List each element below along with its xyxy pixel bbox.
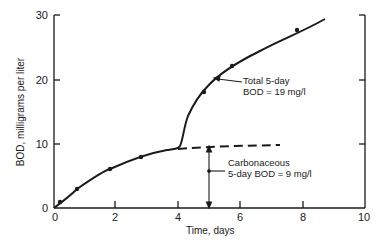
svg-text:30: 30 bbox=[36, 9, 48, 21]
total-label-2: BOD = 19 mg/l bbox=[243, 86, 306, 97]
svg-text:10: 10 bbox=[358, 211, 370, 223]
carbonaceous-bod-curve bbox=[178, 145, 280, 149]
svg-text:2: 2 bbox=[112, 211, 118, 223]
svg-text:20: 20 bbox=[36, 74, 48, 86]
total-label-1: Total 5-day bbox=[243, 75, 290, 86]
carbonaceous-label-1: Carbonaceous bbox=[228, 157, 290, 168]
total-arrow bbox=[214, 76, 242, 82]
carbonaceous-arrow bbox=[207, 146, 226, 208]
svg-text:0: 0 bbox=[52, 211, 58, 223]
svg-text:8: 8 bbox=[300, 211, 306, 223]
bod-chart: 30 20 10 0 0 2 4 6 8 10 Time, days BOD, … bbox=[0, 0, 384, 244]
total-bod-curve bbox=[54, 19, 325, 208]
svg-text:10: 10 bbox=[36, 138, 48, 150]
x-axis-label: Time, days bbox=[186, 225, 235, 236]
x-tick-labels: 0 2 4 6 8 10 bbox=[52, 211, 370, 223]
svg-text:4: 4 bbox=[175, 211, 181, 223]
svg-text:6: 6 bbox=[237, 211, 243, 223]
y-tick-labels: 30 20 10 0 bbox=[36, 9, 48, 214]
y-axis-label: BOD, milligrams per liter bbox=[15, 57, 26, 166]
svg-text:0: 0 bbox=[42, 202, 48, 214]
carbonaceous-label-2: 5-day BOD = 9 mg/l bbox=[228, 168, 312, 179]
